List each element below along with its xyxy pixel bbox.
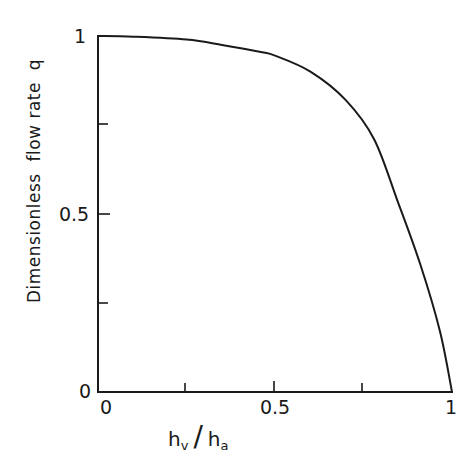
y-tick-label-05: 0.5 <box>59 203 89 225</box>
y-axis-title: Dimensionless flow rate q <box>24 59 44 303</box>
flow-rate-chart: 1 0.5 0 0 0.5 1 Dimensionless flow rate … <box>0 0 475 466</box>
y-tick-label-1: 1 <box>74 25 86 47</box>
x-tick-label-1: 1 <box>445 396 457 418</box>
x-axis-title: hv/ha <box>168 420 228 453</box>
x-title-sub-a: a <box>221 438 229 453</box>
x-title-h1: h <box>168 427 181 451</box>
x-title-slash: / <box>193 420 203 453</box>
x-title-sub-v: v <box>181 438 189 453</box>
x-title-h2: h <box>208 427 221 451</box>
flow-rate-curve <box>98 36 452 392</box>
axes <box>97 35 453 393</box>
x-tick-label-0: 0 <box>100 396 112 418</box>
y-tick-label-0: 0 <box>79 380 91 402</box>
x-ticks <box>185 381 362 392</box>
x-tick-label-05: 0.5 <box>260 396 290 418</box>
y-ticks <box>98 124 110 303</box>
